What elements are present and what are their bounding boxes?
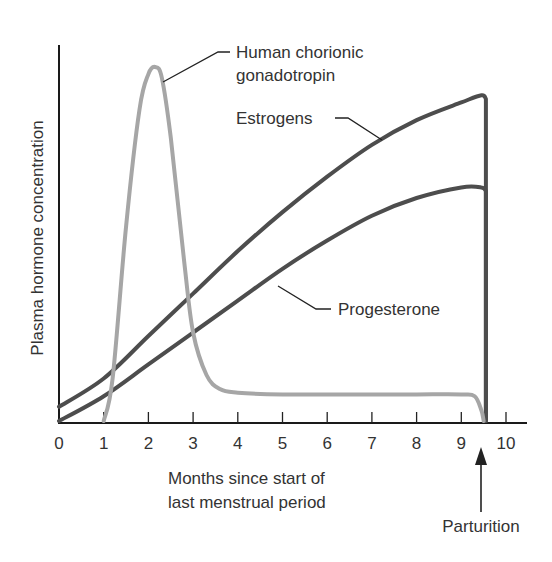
x-axis-label: Months since start of last menstrual per… — [168, 469, 330, 512]
y-axis-label: Plasma hormone concentration — [28, 120, 47, 355]
x-tick-label: 3 — [188, 434, 197, 453]
hormone-chart: 012345678910 Plasma hormone concentratio… — [0, 0, 552, 562]
x-tick-label: 7 — [367, 434, 376, 453]
parturition-label: Parturition — [442, 517, 519, 536]
x-tick-label: 1 — [99, 434, 108, 453]
x-tick-label: 10 — [497, 434, 516, 453]
progesterone-callout-line — [278, 286, 331, 309]
progesterone-label: Progesterone — [338, 300, 440, 319]
estrogens-label: Estrogens — [236, 109, 313, 128]
parturition-arrow-head — [475, 447, 487, 465]
x-tick-label: 5 — [278, 434, 287, 453]
x-tick-label: 2 — [144, 434, 153, 453]
x-tick-label: 0 — [54, 434, 63, 453]
estrogens-callout-line — [335, 118, 382, 140]
hcg-callout-line — [163, 52, 230, 82]
x-tick-label: 6 — [322, 434, 331, 453]
x-tick-label: 4 — [233, 434, 242, 453]
x-tick-labels: 012345678910 — [54, 434, 515, 453]
x-tick-label: 8 — [412, 434, 421, 453]
x-ticks — [104, 412, 506, 423]
hcg-label: Human chorionic gonadotropin — [236, 43, 368, 85]
x-tick-label: 9 — [457, 434, 466, 453]
